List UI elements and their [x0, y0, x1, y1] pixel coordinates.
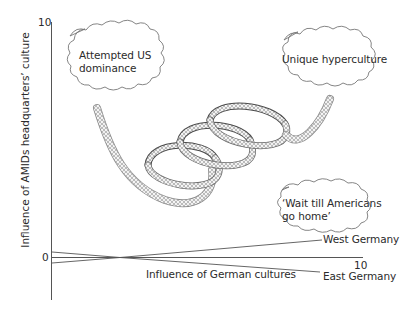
west-germany-line	[52, 240, 322, 258]
cloud-text-line: Attempted US	[79, 49, 151, 62]
cloud-text-line: dominance	[79, 62, 151, 75]
y-axis-label: Influence of AMIDs headquarters’ culture	[19, 32, 31, 247]
east-germany-label: East Germany	[323, 270, 396, 283]
west-germany-label: West Germany	[323, 233, 399, 246]
cloud-text-line: Unique hyperculture	[282, 53, 387, 66]
x-axis-label: Influence of German cultures	[146, 268, 296, 281]
cloud-text-line: go home’	[282, 210, 382, 223]
cloud-attempted-us-dominance-text: Attempted US dominance	[79, 49, 151, 75]
cloud-unique-hyperculture-text: Unique hyperculture	[282, 53, 387, 66]
origin-tick: 0	[42, 251, 49, 263]
cloud-wait-till-americans-text: ‘Wait till Americans go home’	[282, 197, 382, 223]
cloud-text-line: ‘Wait till Americans	[282, 197, 382, 210]
y-axis-max-tick: 10	[38, 16, 51, 28]
